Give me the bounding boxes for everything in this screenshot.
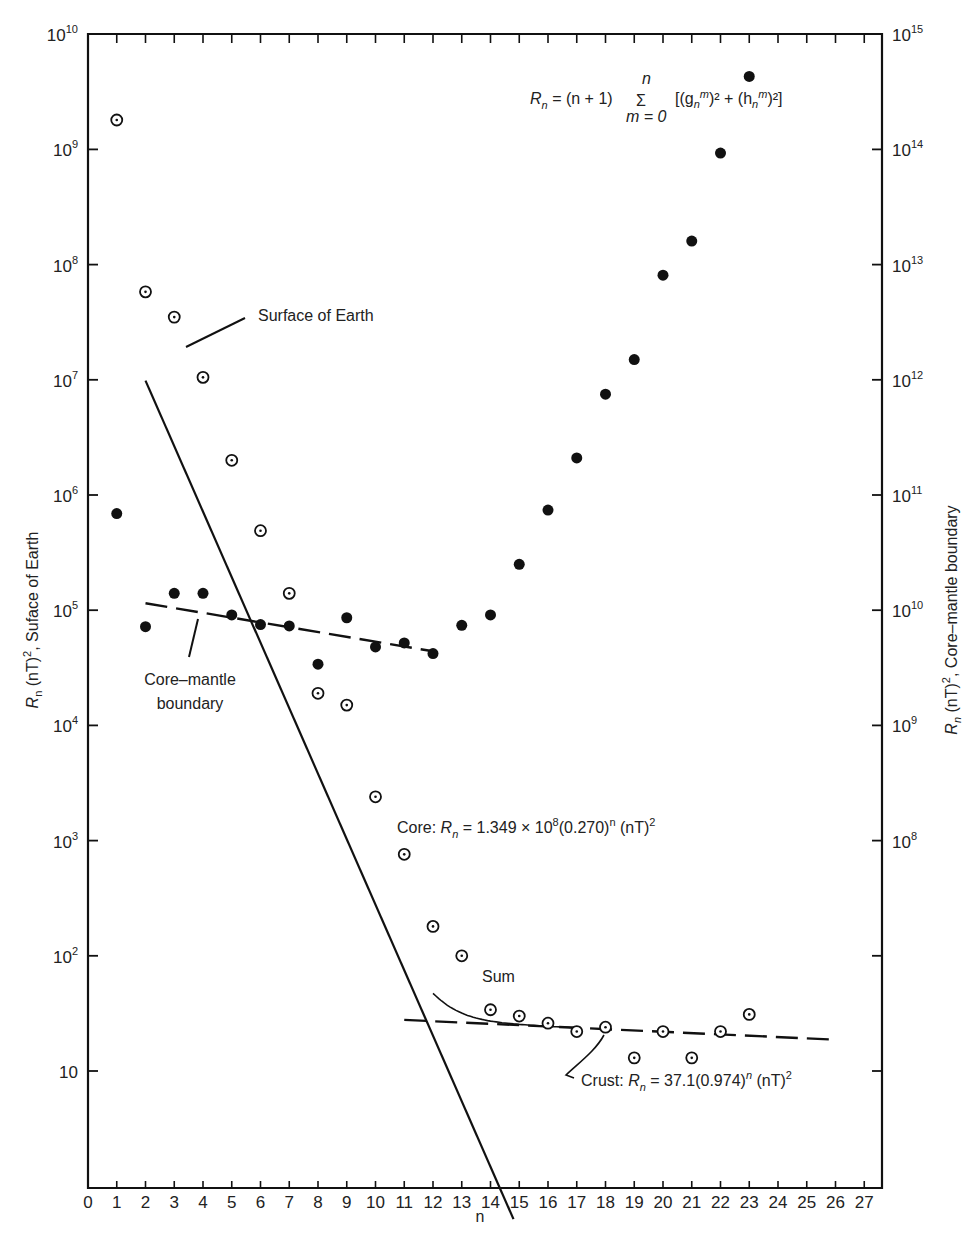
x-tick-label: 11 [395, 1193, 413, 1212]
surface-data-point [226, 455, 237, 466]
right-tick-label: 108 [892, 830, 917, 852]
svg-text:boundary: boundary [157, 695, 224, 712]
right-tick-label: 1010 [892, 599, 923, 621]
axes-box [88, 34, 882, 1188]
cmb-data-point [341, 612, 352, 623]
cmb-data-point [715, 148, 726, 159]
surface-data-point [140, 286, 151, 297]
cmb-data-point [255, 619, 266, 630]
right-y-axis-title: Rn (nT)2, Core–mantle boundary [940, 505, 963, 734]
left-y-axis-title: Rn (nT)2, Suface of Earth [21, 532, 44, 709]
crust-annotation: Crust: Rn = 37.1(0.974)n (nT)2 [566, 1035, 792, 1093]
surface-data-point [686, 1052, 697, 1063]
svg-text:Surface of Earth: Surface of Earth [258, 307, 374, 324]
cmb-data-point [140, 621, 151, 632]
left-tick-label: 108 [53, 254, 78, 276]
cmb-data-point [111, 508, 122, 519]
left-tick-label: 106 [53, 484, 78, 506]
cmb-data-point [600, 389, 611, 400]
cmb-data-point [744, 71, 755, 82]
core-fit-label: Core: Rn = 1.349 × 108(0.270)n (nT)2 [397, 816, 655, 840]
surface-data-point [514, 1011, 525, 1022]
cmb-data-point [485, 609, 496, 620]
x-tick-label: 0 [83, 1193, 92, 1212]
x-tick-label: 20 [654, 1193, 673, 1212]
svg-text:m = 0: m = 0 [626, 108, 667, 125]
left-tick-label: 104 [53, 714, 78, 736]
cmb-data-point [226, 609, 237, 620]
surface-data-point [428, 921, 439, 932]
surface-data-point [629, 1052, 640, 1063]
surface-data-point [198, 372, 209, 383]
x-tick-label: 22 [711, 1193, 730, 1212]
x-tick-label: 16 [539, 1193, 558, 1212]
surface-data-point [658, 1026, 669, 1037]
x-tick-label: 4 [198, 1193, 207, 1212]
left-tick-label: 105 [53, 599, 78, 621]
cmb-data-point [514, 559, 525, 570]
x-tick-label: 18 [596, 1193, 615, 1212]
cmb-data-point [169, 588, 180, 599]
surface-of-earth-points [111, 114, 755, 1063]
x-tick-label: 7 [285, 1193, 294, 1212]
cmb-data-point [571, 452, 582, 463]
cmb-data-point [284, 620, 295, 631]
surface-data-point [313, 688, 324, 699]
cmb-data-point [658, 270, 669, 281]
right-tick-label: 109 [892, 714, 917, 736]
surface-data-point [111, 114, 122, 125]
x-tick-label: 1 [112, 1193, 121, 1212]
x-tick-label: 21 [682, 1193, 701, 1212]
core-mantle-boundary-points [111, 71, 755, 670]
right-tick-label: 1014 [892, 138, 923, 160]
surface-data-point [370, 791, 381, 802]
surface-data-point [485, 1004, 496, 1015]
core-fit-line [146, 381, 514, 1219]
x-tick-label: 8 [313, 1193, 322, 1212]
left-tick-label: 109 [53, 138, 78, 160]
x-tick-label: 9 [342, 1193, 351, 1212]
left-tick-label: 103 [53, 830, 78, 852]
surface-data-point [456, 950, 467, 961]
left-tick-label: 107 [53, 369, 78, 391]
x-tick-label: 24 [769, 1193, 788, 1212]
x-tick-label: 5 [227, 1193, 236, 1212]
sum-label: Sum [482, 968, 515, 985]
surface-data-point [284, 588, 295, 599]
x-tick-label: 15 [510, 1193, 529, 1212]
crust-fit-line [404, 1020, 835, 1040]
x-tick-label: 12 [424, 1193, 443, 1212]
surface-data-point [571, 1026, 582, 1037]
right-tick-label: 1011 [892, 484, 922, 506]
cmb-data-point [456, 620, 467, 631]
x-tick-label: 6 [256, 1193, 265, 1212]
left-tick-label: 1010 [47, 23, 78, 45]
power-spectrum-chart: 0123456789101112131415161718192021222324… [0, 0, 973, 1256]
surface-data-point [600, 1022, 611, 1033]
cmb-data-point [629, 354, 640, 365]
x-axis-title: n [476, 1208, 485, 1225]
right-y-axis-ticks: 101510141013101210111010109108 [872, 23, 923, 1071]
x-tick-label: 2 [141, 1193, 150, 1212]
plot-frame [88, 34, 882, 1188]
x-tick-label: 19 [625, 1193, 644, 1212]
cmb-data-point [543, 505, 554, 516]
svg-text:[(gnm)² + (hnm)²]: [(gnm)² + (hnm)²] [675, 88, 783, 110]
cmb-data-point [686, 236, 697, 247]
surface-data-point [543, 1018, 554, 1029]
cmb-data-point [399, 637, 410, 648]
right-tick-label: 1012 [892, 369, 923, 391]
svg-text:Core–mantle: Core–mantle [144, 671, 236, 688]
right-tick-label: 1015 [892, 23, 923, 45]
cmb-data-point [313, 659, 324, 670]
x-tick-label: 10 [366, 1193, 385, 1212]
x-tick-label: 27 [855, 1193, 874, 1212]
cmb-data-point [428, 648, 439, 659]
x-tick-label: 26 [826, 1193, 845, 1212]
surface-data-point [399, 849, 410, 860]
left-tick-label: 10 [59, 1063, 78, 1082]
surface-data-point [255, 525, 266, 536]
x-tick-label: 23 [740, 1193, 759, 1212]
x-tick-label: 3 [170, 1193, 179, 1212]
surface-of-earth-annotation: Surface of Earth [186, 307, 374, 347]
